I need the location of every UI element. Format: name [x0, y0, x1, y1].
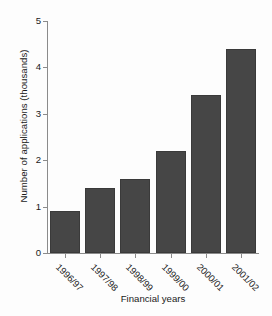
bar	[120, 179, 150, 253]
x-tick-label: 1997/98	[89, 262, 96, 269]
x-axis-title: Financial years	[47, 293, 259, 304]
x-tick-label: 1996/97	[54, 262, 61, 269]
y-tick-mark	[43, 253, 47, 254]
x-tick-mark	[206, 254, 207, 258]
y-tick-mark	[43, 67, 47, 68]
y-axis-title: Number of applications (thousands)	[12, 0, 34, 252]
x-tick-mark	[100, 254, 101, 258]
y-tick-label: 2	[36, 155, 41, 165]
x-tick-label: 2000/01	[195, 262, 202, 269]
x-axis-line	[47, 253, 259, 254]
y-tick-label: 0	[36, 248, 41, 258]
y-tick-mark	[43, 207, 47, 208]
bar	[85, 188, 115, 253]
y-tick-label: 3	[36, 109, 41, 119]
x-tick-mark	[135, 254, 136, 258]
x-tick-label: 1998/99	[125, 262, 132, 269]
y-tick-mark	[43, 21, 47, 22]
bar	[50, 211, 80, 253]
bar	[156, 151, 186, 253]
y-tick-label: 5	[36, 16, 41, 26]
bar	[191, 95, 221, 253]
bar-chart-figure: Number of applications (thousands) 01234…	[0, 0, 272, 316]
y-axis-line	[47, 21, 48, 253]
y-tick-label: 1	[36, 202, 41, 212]
y-tick-mark	[43, 114, 47, 115]
x-tick-label: 2001/02	[231, 262, 238, 269]
x-tick-mark	[241, 254, 242, 258]
y-tick-mark	[43, 160, 47, 161]
y-tick-label: 4	[36, 63, 41, 73]
plot-area: 012345 1996/971997/981998/991999/002000/…	[47, 21, 259, 253]
x-tick-label: 1999/00	[160, 262, 167, 269]
bar	[226, 49, 256, 253]
x-tick-mark	[65, 254, 66, 258]
x-tick-mark	[171, 254, 172, 258]
